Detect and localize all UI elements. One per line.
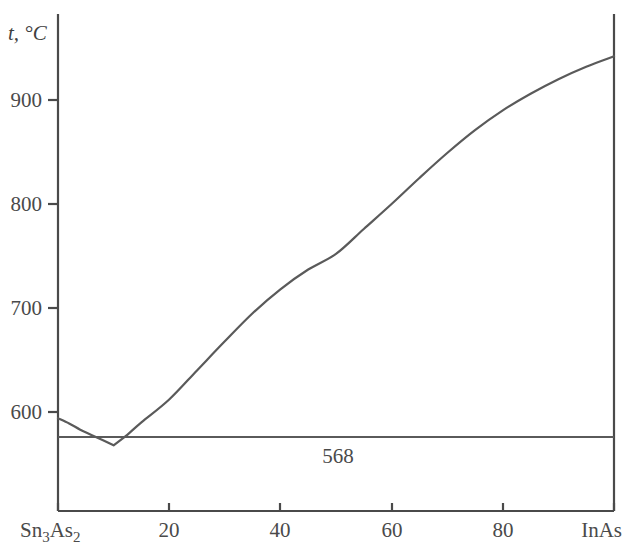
y-tick-label-700: 700: [11, 296, 43, 320]
phase-diagram-svg: 900 800 700 600 t, °C Sn3As2 20 40 60 80…: [0, 0, 642, 545]
x-tick-label-40: 40: [270, 518, 291, 542]
x-tick-label-80: 80: [493, 518, 514, 542]
x-tick-label-60: 60: [382, 518, 403, 542]
x-axis-right-endpoint-label: InAs: [581, 518, 622, 542]
y-axis-title: t, °C: [8, 21, 48, 45]
y-tick-label-800: 800: [11, 192, 43, 216]
chart-background: [0, 0, 642, 545]
phase-diagram-figure: 900 800 700 600 t, °C Sn3As2 20 40 60 80…: [0, 0, 642, 545]
y-tick-label-900: 900: [11, 88, 43, 112]
x-axis-left-endpoint-label: Sn3As2: [20, 518, 81, 545]
x-tick-label-20: 20: [159, 518, 180, 542]
y-tick-label-600: 600: [11, 400, 43, 424]
eutectic-temperature-label: 568: [322, 444, 354, 468]
